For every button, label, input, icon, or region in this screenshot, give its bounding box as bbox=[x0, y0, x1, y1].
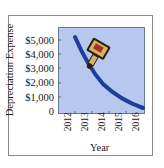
x-tick-2016: 2016 bbox=[132, 109, 142, 135]
plot-area bbox=[58, 27, 145, 114]
y-tick-5000: $5,000 bbox=[25, 36, 54, 47]
y-tick-marks bbox=[58, 40, 61, 97]
y-axis-label: Depreciation Expense bbox=[4, 24, 15, 116]
x-tick-2012: 2012 bbox=[64, 109, 74, 135]
x-tick-2013: 2013 bbox=[81, 109, 91, 135]
plot-svg bbox=[58, 27, 145, 114]
y-tick-4000: $4,000 bbox=[25, 50, 54, 61]
y-tick-3000: $3,000 bbox=[25, 64, 54, 75]
y-tick-0: 0 bbox=[49, 107, 54, 118]
x-axis-label: Year bbox=[90, 142, 109, 153]
x-tick-2015: 2015 bbox=[115, 109, 125, 135]
y-tick-1000: $1,000 bbox=[25, 93, 54, 104]
x-tick-2014: 2014 bbox=[98, 109, 108, 135]
y-tick-2000: $2,000 bbox=[25, 78, 54, 89]
